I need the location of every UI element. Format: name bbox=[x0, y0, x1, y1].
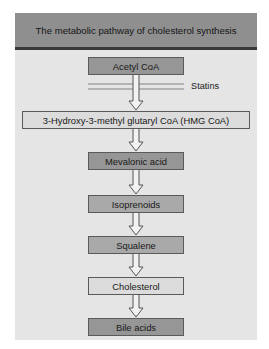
step-squalene: Squalene bbox=[88, 236, 184, 254]
diagram-header: The metabolic pathway of cholesterol syn… bbox=[15, 13, 257, 50]
down-arrow-icon bbox=[128, 213, 144, 236]
step-label: Mevalonic acid bbox=[105, 156, 167, 167]
step-acetyl-coa: Acetyl CoA bbox=[88, 57, 184, 75]
step-label: Acetyl CoA bbox=[113, 61, 159, 72]
statins-label: Statins bbox=[191, 81, 219, 91]
down-arrow-icon bbox=[128, 295, 144, 318]
step-label: Squalene bbox=[116, 240, 156, 251]
down-arrow-icon bbox=[128, 129, 144, 152]
diagram-title: The metabolic pathway of cholesterol syn… bbox=[35, 25, 236, 36]
step-bile-acids: Bile acids bbox=[88, 318, 184, 336]
step-cholesterol: Cholesterol bbox=[88, 277, 184, 295]
step-label: Cholesterol bbox=[112, 281, 159, 292]
step-label: Isoprenoids bbox=[112, 199, 160, 210]
step-label: Bile acids bbox=[116, 322, 156, 333]
step-hmg-coa: 3-Hydroxy-3-methyl glutaryl CoA (HMG CoA… bbox=[22, 111, 250, 129]
down-arrow-icon bbox=[128, 170, 144, 195]
down-arrow-icon bbox=[128, 75, 144, 111]
step-isoprenoids: Isoprenoids bbox=[88, 195, 184, 213]
down-arrow-icon bbox=[128, 254, 144, 277]
step-label: 3-Hydroxy-3-methyl glutaryl CoA (HMG CoA… bbox=[43, 115, 230, 126]
step-mevalonic-acid: Mevalonic acid bbox=[88, 152, 184, 170]
